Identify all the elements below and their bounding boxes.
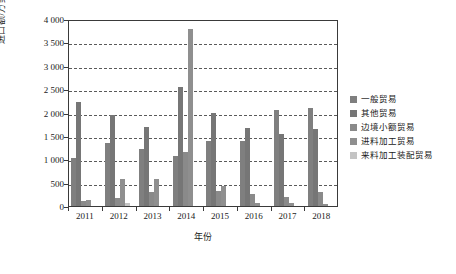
bar (76, 102, 81, 206)
legend-swatch-icon (350, 138, 357, 145)
gridline (69, 44, 337, 45)
legend-swatch-icon (350, 96, 357, 103)
legend-item[interactable]: 来料加工装配贸易 (350, 148, 454, 162)
legend-label: 来料加工装配贸易 (361, 151, 433, 160)
bar (110, 115, 115, 206)
bar (279, 134, 284, 206)
y-axis-tick-label: 2 000 (24, 109, 64, 119)
plot-area (68, 20, 338, 207)
gridline (69, 68, 337, 69)
x-axis-title: 年份 (68, 230, 338, 243)
legend-item[interactable]: 边境小额贸易 (350, 120, 454, 134)
legend-item[interactable]: 其他贸易 (350, 106, 454, 120)
gridline (69, 91, 337, 92)
y-axis-tick-label: 4 000 (24, 15, 64, 25)
bar (255, 203, 260, 207)
bar (323, 204, 328, 206)
legend-item[interactable]: 一般贸易 (350, 92, 454, 106)
bar (221, 186, 226, 206)
y-axis-tick-label: 500 (24, 179, 64, 189)
y-axis-tick-label: 3 000 (24, 62, 64, 72)
bar (289, 203, 294, 206)
y-axis-tick-labels: 05001 0001 5002 0002 5003 0003 5004 000 (22, 20, 64, 207)
legend-label: 其他贸易 (361, 109, 397, 118)
legend-swatch-icon (350, 152, 357, 159)
bar (154, 179, 159, 206)
bar (86, 200, 91, 206)
y-axis-tick-label: 0 (24, 202, 64, 212)
chart-root: 进口额/万美元 05001 0001 5002 0002 5003 0003 5… (0, 0, 456, 274)
legend-swatch-icon (350, 124, 357, 131)
x-axis-tick-label: 2018 (301, 211, 341, 221)
legend-item[interactable]: 进料加工贸易 (350, 134, 454, 148)
bar (125, 203, 130, 207)
y-axis-title: 进口额/万美元 (0, 0, 7, 74)
y-axis-tick-label: 2 500 (24, 85, 64, 95)
y-axis-tick-label: 1 500 (24, 132, 64, 142)
legend-swatch-icon (350, 110, 357, 117)
legend-label: 边境小额贸易 (361, 123, 415, 132)
x-axis-tickmark (68, 207, 69, 211)
legend: 一般贸易其他贸易边境小额贸易进料加工贸易来料加工装配贸易 (350, 92, 454, 162)
legend-label: 进料加工贸易 (361, 137, 415, 146)
legend-label: 一般贸易 (361, 95, 397, 104)
bar (188, 29, 193, 206)
y-axis-tick-label: 3 500 (24, 38, 64, 48)
y-axis-tick-label: 1 000 (24, 155, 64, 165)
